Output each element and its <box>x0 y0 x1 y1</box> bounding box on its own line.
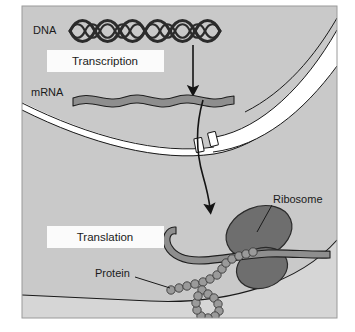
protein-label: Protein <box>95 267 130 279</box>
diagram-figure: DNA mRNA Transcription Translation Ribos… <box>0 0 355 332</box>
mrna-label: mRNA <box>31 86 64 98</box>
transcription-translation-diagram: DNA mRNA Transcription Translation Ribos… <box>0 0 355 332</box>
translation-label: Translation <box>77 231 133 243</box>
transcription-label: Transcription <box>72 55 138 67</box>
ribosome-label: Ribosome <box>273 193 323 205</box>
dna-label: DNA <box>33 24 57 36</box>
